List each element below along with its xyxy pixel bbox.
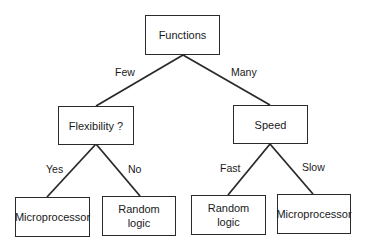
- edge-few: [96, 55, 183, 106]
- edge-label-fast: Fast: [220, 162, 240, 174]
- edge-label-many: Many: [231, 66, 257, 78]
- leaf-random-logic-right: Random logic: [191, 195, 266, 235]
- edge-label-yes: Yes: [46, 163, 63, 175]
- node-functions: Functions: [145, 15, 220, 55]
- edge-label-no: No: [128, 163, 141, 175]
- node-label: Random logic: [208, 201, 250, 229]
- node-speed: Speed: [233, 105, 308, 144]
- edge-many: [183, 55, 270, 105]
- leaf-random-logic-left: Random logic: [102, 196, 176, 236]
- edge-label-few: Few: [115, 66, 135, 78]
- node-label: Functions: [159, 28, 207, 42]
- node-label: Flexibility ?: [69, 119, 123, 133]
- node-label: Microprocessor: [276, 207, 351, 221]
- leaf-microprocessor-right: Microprocessor: [277, 194, 351, 234]
- edge-label-slow: Slow: [302, 161, 325, 173]
- node-label: Random logic: [118, 202, 160, 230]
- node-label: Microprocessor: [15, 210, 90, 224]
- node-label: Speed: [255, 118, 287, 132]
- node-flexibility: Flexibility ?: [58, 106, 134, 145]
- leaf-microprocessor-left: Microprocessor: [15, 197, 90, 237]
